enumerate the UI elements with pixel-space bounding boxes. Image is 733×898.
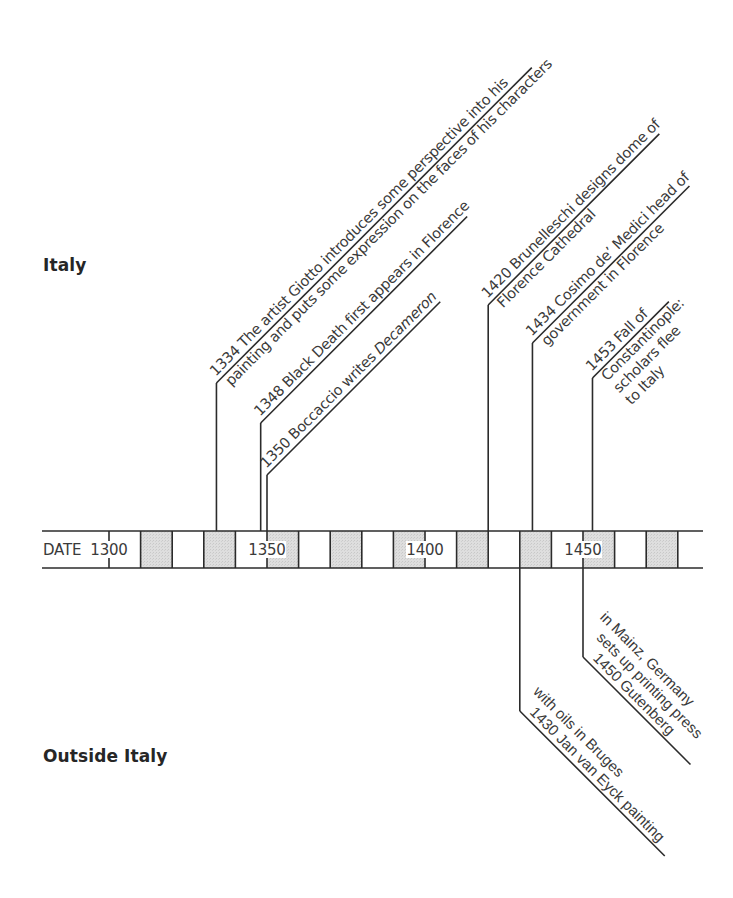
event-label: 1450 Gutenbergsets up printing pressin M… (573, 608, 718, 753)
timeline-cell-shaded (520, 531, 552, 568)
event-text-line: 1420 Brunelleschi designs dome of (478, 115, 663, 300)
timeline-diagram: Italy Outside Italy DATE 130013501400145… (0, 0, 733, 898)
event-text-line: 1430 Jan van Eyck painting (527, 703, 669, 845)
event-text-segment: 1420 Brunelleschi designs dome of (478, 115, 663, 300)
timeline-cell-shaded (204, 531, 236, 568)
axis-label-date: DATE (43, 541, 81, 559)
event-text-segment: 1430 Jan van Eyck painting (527, 703, 669, 845)
event-text-line: 1334 The artist Giotto introduces some p… (207, 74, 511, 378)
timeline-cell-shaded (457, 531, 489, 568)
events-layer: 1334 The artist Giotto introduces some p… (207, 43, 719, 856)
timeline-cell-shaded (646, 531, 678, 568)
event-label: 1453 Fall ofConstantinople:scholars flee… (583, 282, 712, 411)
tick-label-1450: 1450 (564, 541, 601, 559)
event-italy-1453: 1453 Fall ofConstantinople:scholars flee… (583, 282, 712, 531)
tick-label-1300: 1300 (90, 541, 127, 559)
timeline-svg: DATE 1300135014001450 1334 The artist Gi… (0, 0, 733, 898)
tick-label-1350: 1350 (248, 541, 285, 559)
timeline-cell-shaded (141, 531, 173, 568)
tick-label-1400: 1400 (406, 541, 443, 559)
timeline-cell-shaded (330, 531, 362, 568)
event-text-segment: 1334 The artist Giotto introduces some p… (207, 74, 511, 378)
